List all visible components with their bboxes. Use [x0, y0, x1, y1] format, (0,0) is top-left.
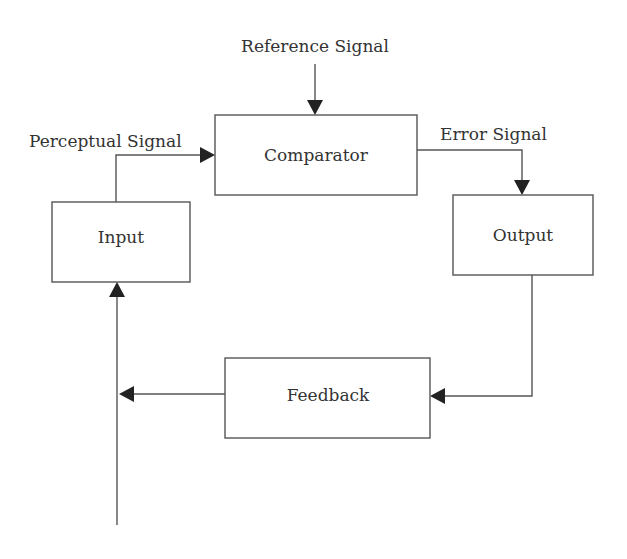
error-signal-connector: Error Signal: [417, 124, 547, 195]
feedback-label: Feedback: [287, 385, 370, 405]
control-loop-diagram: Reference Signal Comparator Perceptual S…: [0, 0, 627, 559]
feedback-to-input-connector: [119, 386, 225, 402]
error-signal-line: [417, 150, 522, 182]
perceptual-signal-line: [116, 155, 202, 202]
output-label: Output: [493, 225, 554, 245]
error-signal-label: Error Signal: [440, 124, 547, 144]
arrowhead-down-icon: [514, 180, 530, 195]
perceptual-signal-label: Perceptual Signal: [29, 131, 182, 151]
arrowhead-up-icon: [109, 282, 125, 297]
input-entry-connector: [109, 282, 125, 525]
arrowhead-down-icon: [307, 100, 323, 115]
feedback-block: Feedback: [225, 358, 430, 438]
arrowhead-left-icon: [119, 386, 134, 402]
perceptual-signal-connector: Perceptual Signal: [29, 131, 215, 202]
comparator-block: Comparator: [215, 115, 417, 195]
output-block: Output: [453, 195, 593, 275]
reference-signal-connector: Reference Signal: [241, 36, 389, 115]
reference-signal-label: Reference Signal: [241, 36, 389, 56]
output-to-feedback-line: [443, 275, 532, 396]
input-label: Input: [98, 227, 144, 247]
arrowhead-left-icon: [430, 388, 445, 404]
output-to-feedback-connector: [430, 275, 532, 404]
comparator-label: Comparator: [264, 145, 369, 165]
input-block: Input: [52, 202, 190, 282]
arrowhead-right-icon: [200, 147, 215, 163]
